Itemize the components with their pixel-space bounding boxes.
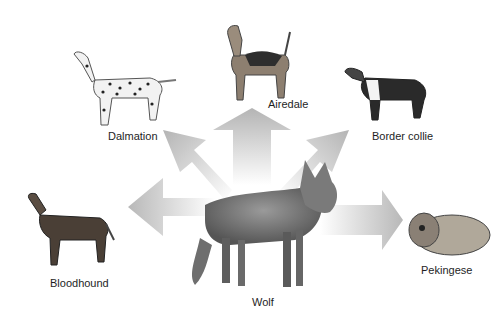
bloodhound-illustration	[28, 193, 114, 265]
label-bloodhound: Bloodhound	[50, 277, 109, 289]
airedale-illustration	[228, 25, 290, 100]
arrow-to-dalmation	[163, 130, 232, 200]
pekingese-illustration	[409, 213, 490, 255]
label-border-collie: Border collie	[372, 130, 433, 142]
label-pekingese: Pekingese	[421, 264, 472, 276]
label-dalmation: Dalmation	[108, 130, 158, 142]
dalmation-illustration	[74, 52, 176, 125]
arrow-to-bloodhound	[128, 178, 215, 236]
label-airedale: Airedale	[268, 98, 308, 110]
label-wolf: Wolf	[252, 296, 274, 308]
border-collie-illustration	[345, 68, 426, 120]
wolf-to-dog-breeds-diagram: Dalmation Airedale Border collie Bloodho…	[0, 0, 504, 316]
arrow-to-airedale	[213, 108, 291, 185]
